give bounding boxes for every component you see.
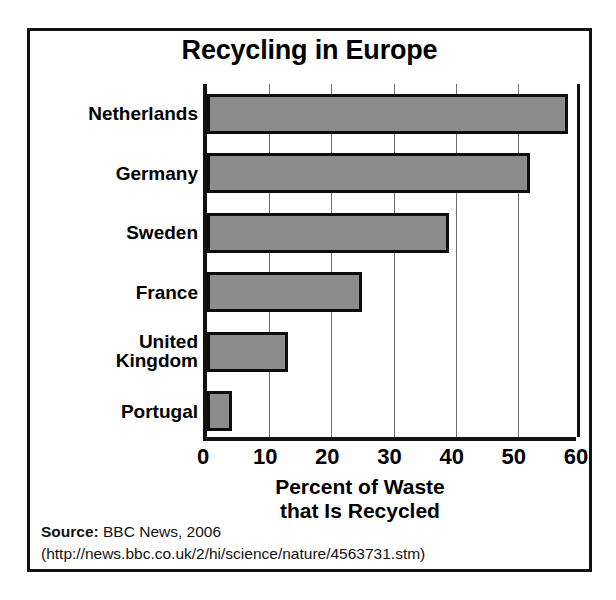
category-label-united-kingdom: United Kingdom — [116, 332, 198, 371]
x-tick-label-60: 60 — [564, 444, 588, 470]
category-label-germany: Germany — [116, 164, 198, 183]
bar-row — [207, 332, 576, 372]
category-label-sweden: Sweden — [126, 223, 198, 242]
source-lead: Source: — [41, 523, 99, 540]
source-line-1: Source: BBC News, 2006 — [41, 521, 581, 543]
chart-title: Recycling in Europe — [30, 35, 589, 66]
source-note: Source: BBC News, 2006 (http://news.bbc.… — [41, 521, 581, 566]
bar-united-kingdom — [207, 332, 288, 372]
source-text: BBC News, 2006 — [99, 523, 221, 540]
x-tick-label-50: 50 — [502, 444, 526, 470]
category-label-netherlands: Netherlands — [88, 104, 198, 123]
x-tick-label-30: 30 — [377, 444, 401, 470]
bar-row — [207, 213, 576, 253]
bar-france — [207, 272, 362, 312]
x-tick-label-0: 0 — [197, 444, 209, 470]
plot-inner — [207, 84, 576, 437]
bar-portugal — [207, 391, 232, 431]
x-tick-label-40: 40 — [439, 444, 463, 470]
category-axis-labels: Netherlands Germany Sweden France United… — [30, 84, 198, 441]
plot-area — [203, 84, 576, 441]
gridline-60 — [577, 84, 580, 437]
gridline-50 — [518, 84, 519, 437]
x-axis-tick-labels: 0102030405060 — [203, 444, 576, 474]
bar-netherlands — [207, 94, 568, 134]
bar-sweden — [207, 213, 449, 253]
bar-row — [207, 272, 576, 312]
chart-figure: Recycling in Europe Netherlands Germany … — [27, 28, 592, 572]
bar-row — [207, 153, 576, 193]
source-url: (http://news.bbc.co.uk/2/hi/science/natu… — [41, 543, 581, 565]
gridline-10 — [269, 84, 270, 437]
gridline-40 — [456, 84, 457, 437]
x-tick-label-20: 20 — [315, 444, 339, 470]
category-label-france: France — [136, 283, 198, 302]
bar-row — [207, 94, 576, 134]
gridline-20 — [331, 84, 332, 437]
x-axis-title: Percent of Waste that Is Recycled — [140, 475, 580, 523]
bar-germany — [207, 153, 530, 193]
x-tick-label-10: 10 — [253, 444, 277, 470]
category-label-portugal: Portugal — [121, 402, 198, 421]
bar-row — [207, 391, 576, 431]
x-axis-title-line-1: Percent of Waste — [140, 475, 580, 499]
x-axis-title-line-2: that Is Recycled — [140, 499, 580, 523]
gridline-30 — [394, 84, 395, 437]
